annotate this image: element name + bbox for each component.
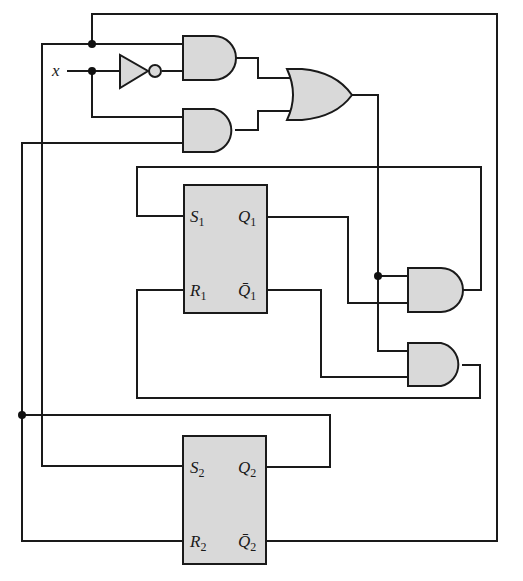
input-x-label: x (51, 61, 60, 80)
junction-dot (18, 411, 26, 419)
or-gate (287, 69, 352, 120)
flipflop-2: S2 Q2 R2 Q̄2 (183, 436, 266, 564)
wire-or-out (352, 95, 408, 351)
and-gate-top (183, 36, 236, 80)
wire-and-bottom-to-or (236, 111, 290, 130)
wire-q2-loop (22, 415, 330, 467)
wire-q2-to-and-bottom (22, 143, 183, 541)
and-gate-bottom (183, 109, 231, 152)
not-triangle-icon (120, 55, 148, 88)
and-gate-r1 (408, 343, 458, 386)
wire-q2bar-to-and-top (42, 44, 183, 466)
and-gate-s1 (408, 268, 463, 312)
circuit-diagram: S1 Q1 R1 Q̄1 S2 Q2 R2 Q̄2 x (0, 0, 523, 581)
junction-dot (374, 272, 382, 280)
not-bubble-icon (149, 65, 161, 77)
junction-dot (88, 67, 96, 75)
not-gate (120, 55, 161, 88)
flipflop-1: S1 Q1 R1 Q̄1 (184, 185, 267, 313)
junction-dot (88, 40, 96, 48)
wire-and-top-to-or (236, 58, 290, 78)
